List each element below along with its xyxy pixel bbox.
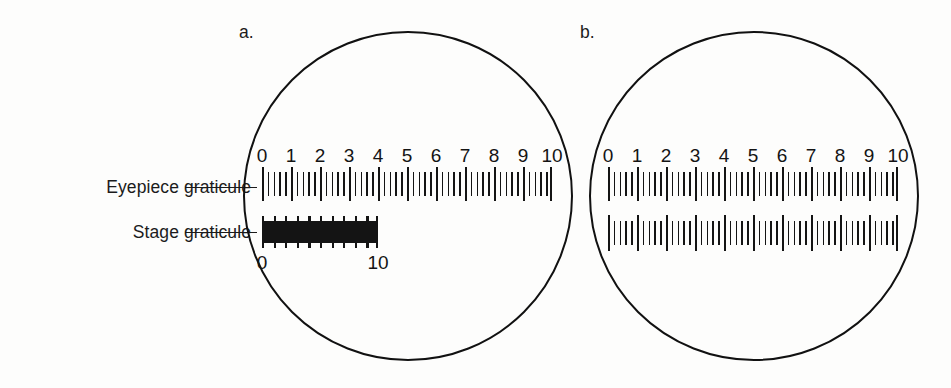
graticule-major-tick bbox=[343, 216, 345, 248]
scale-number: 3 bbox=[344, 146, 355, 166]
graticule-minor-tick bbox=[343, 172, 345, 196]
scale-number: 4 bbox=[373, 146, 384, 166]
graticule-minor-tick bbox=[471, 172, 473, 196]
graticule-minor-tick bbox=[776, 172, 778, 196]
graticule-minor-tick bbox=[799, 221, 801, 245]
scale-number: 7 bbox=[806, 146, 817, 166]
graticule-minor-tick bbox=[852, 172, 854, 196]
graticule-minor-tick bbox=[892, 172, 894, 196]
graticule-minor-tick bbox=[736, 172, 738, 196]
scale-number: 3 bbox=[690, 146, 701, 166]
graticule-major-tick bbox=[666, 215, 668, 251]
graticule-major-tick bbox=[811, 167, 813, 201]
graticule-major-tick bbox=[753, 167, 755, 201]
graticule-minor-tick bbox=[308, 172, 310, 196]
graticule-minor-tick bbox=[337, 172, 339, 196]
graticule-minor-tick bbox=[730, 172, 732, 196]
graticule-major-tick bbox=[724, 215, 726, 251]
graticule-major-tick bbox=[285, 216, 287, 248]
scale-number: 9 bbox=[518, 146, 529, 166]
graticule-minor-tick bbox=[701, 172, 703, 196]
graticule-minor-tick bbox=[759, 221, 761, 245]
graticule-minor-tick bbox=[765, 221, 767, 245]
graticule-minor-tick bbox=[683, 172, 685, 196]
stage-scale-number: 0 bbox=[257, 252, 268, 274]
graticule-minor-tick bbox=[828, 221, 830, 245]
graticule-minor-tick bbox=[419, 172, 421, 196]
graticule-minor-tick bbox=[741, 172, 743, 196]
graticule-major-tick bbox=[332, 216, 334, 248]
graticule-end-cap bbox=[608, 167, 610, 201]
graticule-major-tick bbox=[274, 216, 276, 248]
graticule-minor-tick bbox=[620, 172, 622, 196]
graticule-minor-tick bbox=[660, 221, 662, 245]
graticule-minor-tick bbox=[817, 221, 819, 245]
graticule-minor-tick bbox=[707, 172, 709, 196]
graticule-minor-tick bbox=[488, 172, 490, 196]
graticule-minor-tick bbox=[881, 221, 883, 245]
graticule-major-tick bbox=[869, 167, 871, 201]
graticule-major-tick bbox=[666, 167, 668, 201]
graticule-minor-tick bbox=[448, 172, 450, 196]
graticule-minor-tick bbox=[857, 172, 859, 196]
graticule-minor-tick bbox=[372, 172, 374, 196]
scale-number: 5 bbox=[748, 146, 759, 166]
graticule-minor-tick bbox=[477, 172, 479, 196]
graticule-minor-tick bbox=[643, 172, 645, 196]
graticule-minor-tick bbox=[747, 221, 749, 245]
scale-number: 6 bbox=[431, 146, 442, 166]
graticule-minor-tick bbox=[511, 172, 513, 196]
graticule-major-tick bbox=[753, 215, 755, 251]
graticule-minor-tick bbox=[863, 172, 865, 196]
graticule-minor-tick bbox=[355, 172, 357, 196]
graticule-minor-tick bbox=[823, 221, 825, 245]
graticule-minor-tick bbox=[631, 172, 633, 196]
graticule-minor-tick bbox=[314, 172, 316, 196]
graticule-minor-tick bbox=[892, 221, 894, 245]
graticule-minor-tick bbox=[794, 221, 796, 245]
scale-number: 8 bbox=[835, 146, 846, 166]
eyepiece-graticule-a bbox=[262, 172, 552, 196]
graticule-minor-tick bbox=[834, 221, 836, 245]
graticule-minor-tick bbox=[718, 221, 720, 245]
graticule-minor-tick bbox=[672, 221, 674, 245]
graticule-minor-tick bbox=[660, 172, 662, 196]
graticule-minor-tick bbox=[285, 172, 287, 196]
graticule-minor-tick bbox=[741, 221, 743, 245]
scale-number: 10 bbox=[541, 146, 562, 166]
graticule-minor-tick bbox=[297, 172, 299, 196]
graticule-minor-tick bbox=[857, 221, 859, 245]
graticule-minor-tick bbox=[683, 221, 685, 245]
graticule-minor-tick bbox=[759, 172, 761, 196]
graticule-minor-tick bbox=[413, 172, 415, 196]
graticule-minor-tick bbox=[482, 172, 484, 196]
scale-number: 2 bbox=[661, 146, 672, 166]
graticule-major-tick bbox=[291, 167, 293, 201]
graticule-end-cap bbox=[376, 216, 378, 248]
graticule-minor-tick bbox=[529, 172, 531, 196]
graticule-major-tick bbox=[378, 167, 380, 201]
graticule-major-tick bbox=[724, 167, 726, 201]
graticule-minor-tick bbox=[620, 221, 622, 245]
graticule-major-tick bbox=[637, 215, 639, 251]
graticule-minor-tick bbox=[459, 172, 461, 196]
graticule-major-tick bbox=[366, 216, 368, 248]
graticule-minor-tick bbox=[886, 172, 888, 196]
graticule-minor-tick bbox=[649, 221, 651, 245]
graticule-minor-tick bbox=[390, 172, 392, 196]
scale-number: 0 bbox=[257, 146, 268, 166]
graticule-minor-tick bbox=[834, 172, 836, 196]
graticule-minor-tick bbox=[863, 221, 865, 245]
graticule-minor-tick bbox=[747, 172, 749, 196]
graticule-major-tick bbox=[695, 215, 697, 251]
graticule-minor-tick bbox=[631, 221, 633, 245]
graticule-minor-tick bbox=[712, 221, 714, 245]
graticule-minor-tick bbox=[846, 172, 848, 196]
graticule-minor-tick bbox=[517, 172, 519, 196]
graticule-minor-tick bbox=[649, 172, 651, 196]
graticule-minor-tick bbox=[430, 172, 432, 196]
graticule-minor-tick bbox=[332, 172, 334, 196]
graticule-minor-tick bbox=[366, 172, 368, 196]
scale-number: 2 bbox=[315, 146, 326, 166]
graticule-minor-tick bbox=[770, 172, 772, 196]
